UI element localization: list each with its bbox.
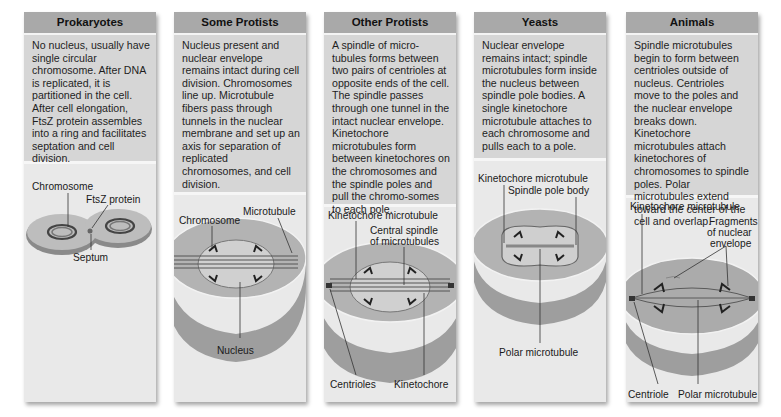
cell-icon: [626, 258, 758, 376]
label-centriole: Centriole: [628, 389, 669, 400]
label-kinetochore-microtubule: Kinetochore microtubule: [478, 173, 588, 184]
panel-some-protists: Some Protists Nucleus present and nuclea…: [174, 12, 306, 402]
yeast-cell-illustration: Kinetochore microtubule Spindle pole bod…: [474, 161, 606, 402]
centriole-icon: [326, 283, 332, 288]
panel-animals: Animals Spindle microtubules begin to fo…: [626, 12, 758, 402]
label-nucleus: Nucleus: [217, 345, 254, 356]
panel-description: Nucleus present and nuclear envelope rem…: [174, 35, 306, 195]
label-fragments-line2: of nuclear: [707, 227, 752, 238]
panel-title: Prokaryotes: [24, 12, 156, 35]
label-microtubule: Microtubule: [243, 206, 296, 217]
centriole-icon: [749, 296, 755, 301]
centriole-icon: [629, 296, 635, 301]
label-kinetochore: Kinetochore: [394, 379, 449, 390]
panel-description: Spindle microtubules begin to form betwe…: [626, 35, 758, 198]
animal-cell-illustration: Kinetochore microtubule Fragments of nuc…: [626, 198, 758, 402]
panel-description: A spindle of micro-tubules forms between…: [324, 35, 456, 207]
label-polar-microtubule: Polar microtubule: [499, 347, 579, 358]
panel-prokaryotes: Prokaryotes No nucleus, usually have sin…: [24, 12, 156, 402]
label-central-spindle-line2: of microtubules: [370, 236, 439, 247]
label-central-spindle: Central spindle: [370, 225, 438, 236]
centriole-icon: [448, 283, 454, 288]
label-chromosome: Chromosome: [179, 215, 240, 226]
label-kinetochore-microtubule: Kinetochore microtubule: [328, 210, 438, 221]
panel-title: Other Protists: [324, 12, 456, 35]
label-centrioles: Centrioles: [330, 379, 376, 390]
dividing-bacterium-icon: [26, 209, 152, 255]
label-kinetochore-microtubule: Kinetochore microtubule: [630, 201, 740, 212]
label-polar-microtubule: Polar microtubule: [678, 389, 758, 400]
panel-description: No nucleus, usually have single circular…: [24, 35, 156, 164]
protist-spindle-illustration: Kinetochore microtubule Central spindle …: [324, 207, 456, 402]
panel-title: Some Protists: [174, 12, 306, 35]
protist-cell-illustration: Chromosome Microtubule Nucleus: [174, 196, 306, 402]
label-septum: Septum: [73, 252, 108, 263]
label-fragments: Fragments: [709, 216, 758, 227]
panel-title: Animals: [626, 12, 758, 35]
panel-description: Nuclear envelope remains intact; spindle…: [474, 35, 606, 161]
panel-yeasts: Yeasts Nuclear envelope remains intact; …: [474, 12, 606, 402]
label-chromosome: Chromosome: [32, 181, 93, 192]
label-ftsz-protein: FtsZ protein: [86, 194, 140, 205]
prokaryote-illustration: Chromosome FtsZ protein Septum: [24, 165, 156, 402]
panel-other-protists: Other Protists A spindle of micro-tubule…: [324, 12, 456, 402]
label-spindle-pole-body: Spindle pole body: [508, 185, 590, 196]
label-fragments-line3: envelope: [710, 238, 752, 249]
panel-title: Yeasts: [474, 12, 606, 35]
cell-icon: [324, 242, 456, 383]
